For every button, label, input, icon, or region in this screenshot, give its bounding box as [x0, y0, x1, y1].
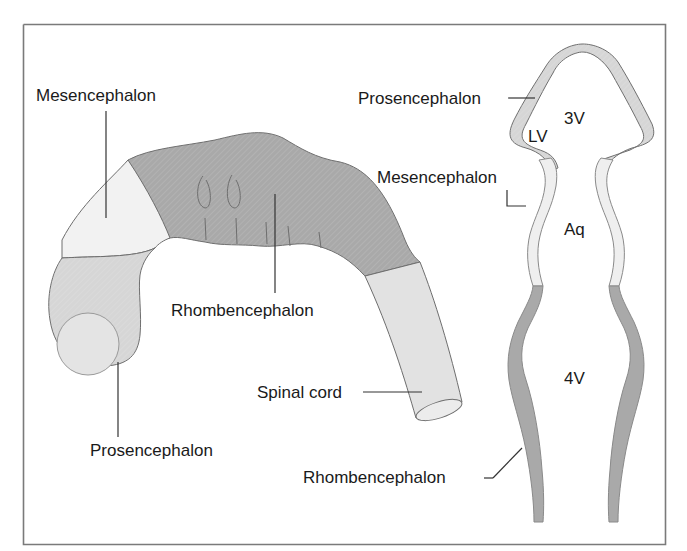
label-prosencephalon-section: Prosencephalon — [358, 90, 481, 107]
label-mesencephalon-lateral: Mesencephalon — [36, 87, 156, 104]
label-aqueduct: Aq — [564, 221, 585, 238]
label-spinal-cord: Spinal cord — [257, 384, 342, 401]
spinal-cord-region — [365, 262, 462, 418]
rhombencephalon-wall-right — [608, 286, 644, 522]
label-third-ventricle: 3V — [564, 110, 585, 127]
mesencephalon-wall-right — [595, 158, 624, 286]
label-mesencephalon-section: Mesencephalon — [377, 169, 497, 186]
mesencephalon-wall-left — [528, 158, 557, 286]
rhombencephalon-wall-left — [508, 286, 544, 522]
optic-vesicle — [57, 313, 119, 375]
label-lateral-ventricle: LV — [528, 128, 548, 145]
label-rhombencephalon-lateral: Rhombencephalon — [171, 302, 314, 319]
label-rhombencephalon-section: Rhombencephalon — [303, 469, 446, 486]
label-prosencephalon-lateral: Prosencephalon — [90, 442, 213, 459]
label-fourth-ventricle: 4V — [564, 370, 585, 387]
